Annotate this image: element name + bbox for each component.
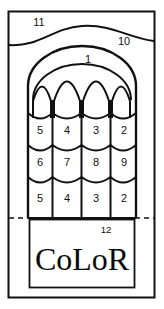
cell-r2c1: 6 (37, 156, 43, 168)
region-label-10: 10 (118, 35, 130, 47)
cell-r1c3: 3 (93, 124, 99, 136)
cell-r3c1: 5 (37, 192, 43, 204)
word-color: CoLoR (30, 243, 134, 275)
cell-r3c2: 4 (64, 192, 70, 204)
region-label-12: 12 (101, 224, 112, 235)
word-color-text: CoLoR (35, 241, 129, 277)
cell-r2c2: 7 (64, 156, 70, 168)
cell-r1c2: 4 (64, 124, 70, 136)
illustration-canvas: 11 10 1 5 4 3 2 6 (0, 0, 164, 309)
cell-r3c3: 3 (93, 192, 99, 204)
cell-r2c3: 8 (93, 156, 99, 168)
cell-r1c4: 2 (121, 124, 127, 136)
region-label-11: 11 (33, 16, 44, 28)
cell-r1c1: 5 (37, 124, 43, 136)
cell-r3c4: 2 (121, 192, 127, 204)
region-label-1: 1 (85, 53, 91, 65)
cell-r2c4: 9 (121, 156, 127, 168)
